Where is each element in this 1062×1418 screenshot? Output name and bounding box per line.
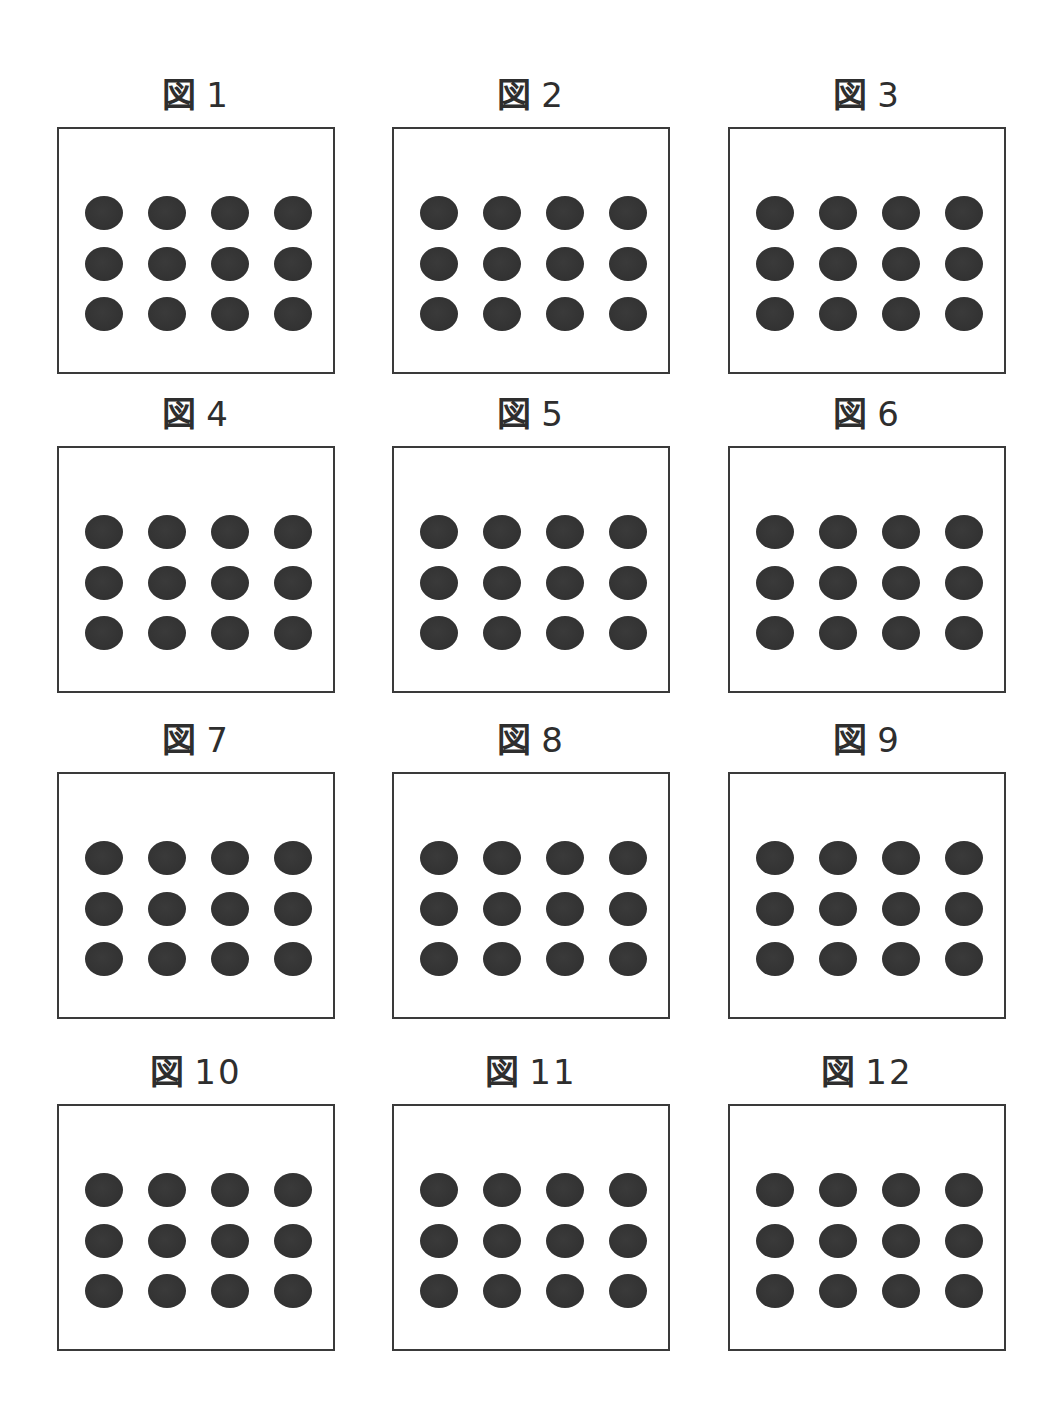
dot-icon: [85, 841, 123, 875]
dot-icon: [483, 566, 521, 600]
dot-icon: [945, 297, 983, 331]
dot-icon: [274, 515, 312, 549]
dot-icon: [85, 297, 123, 331]
dot-icon: [819, 247, 857, 281]
figure-number: 11: [529, 1052, 576, 1092]
figure-number: 3: [877, 75, 901, 115]
figure-label: 図: [162, 720, 198, 760]
dot-icon: [274, 196, 312, 230]
figure-label: 図: [833, 75, 869, 115]
dot-icon: [85, 1173, 123, 1207]
dot-icon: [819, 196, 857, 230]
dot-icon: [148, 1274, 186, 1308]
dot-icon: [148, 892, 186, 926]
dot-icon: [546, 942, 584, 976]
dot-icon: [483, 297, 521, 331]
dot-icon: [420, 616, 458, 650]
dot-icon: [483, 892, 521, 926]
dot-icon: [148, 942, 186, 976]
dot-icon: [819, 1173, 857, 1207]
dot-icon: [945, 892, 983, 926]
figure-title: 図10: [57, 1052, 335, 1092]
dot-icon: [819, 616, 857, 650]
dot-icon: [148, 247, 186, 281]
dot-icon: [420, 942, 458, 976]
dot-icon: [211, 1274, 249, 1308]
dot-icon: [756, 196, 794, 230]
dot-icon: [148, 841, 186, 875]
dot-icon: [609, 247, 647, 281]
dot-icon: [546, 616, 584, 650]
dot-icon: [483, 515, 521, 549]
dot-icon: [148, 1173, 186, 1207]
figure-title: 図9: [728, 720, 1006, 760]
figure-title: 図12: [728, 1052, 1006, 1092]
dot-icon: [85, 616, 123, 650]
dot-icon: [609, 566, 647, 600]
figure-number: 8: [541, 720, 565, 760]
figure-number: 2: [541, 75, 565, 115]
dot-icon: [420, 841, 458, 875]
figure-box: [392, 446, 670, 693]
dot-icon: [882, 1274, 920, 1308]
dot-icon: [420, 1274, 458, 1308]
dot-icon: [756, 1224, 794, 1258]
dot-icon: [756, 297, 794, 331]
dot-icon: [274, 1224, 312, 1258]
dot-icon: [211, 1173, 249, 1207]
figure-number: 12: [865, 1052, 912, 1092]
dot-icon: [546, 566, 584, 600]
dot-icon: [945, 515, 983, 549]
dot-icon: [274, 1173, 312, 1207]
dot-icon: [483, 247, 521, 281]
dot-icon: [211, 247, 249, 281]
figure-box: [392, 772, 670, 1019]
dot-icon: [546, 1224, 584, 1258]
dot-icon: [882, 1173, 920, 1207]
dot-icon: [211, 1224, 249, 1258]
dot-icon: [483, 616, 521, 650]
dot-icon: [819, 942, 857, 976]
figure-label: 図: [162, 394, 198, 434]
figure-box: [728, 1104, 1006, 1351]
dot-icon: [882, 297, 920, 331]
dot-icon: [211, 942, 249, 976]
figure-label: 図: [150, 1052, 186, 1092]
figure-box: [728, 127, 1006, 374]
dot-icon: [274, 616, 312, 650]
figure-box: [57, 772, 335, 1019]
figure-box: [57, 1104, 335, 1351]
dot-icon: [211, 566, 249, 600]
dot-icon: [609, 841, 647, 875]
dot-icon: [945, 841, 983, 875]
dot-icon: [211, 196, 249, 230]
dot-icon: [85, 1224, 123, 1258]
dot-icon: [546, 1173, 584, 1207]
figure-number: 10: [194, 1052, 241, 1092]
dot-icon: [85, 566, 123, 600]
figure-box: [728, 446, 1006, 693]
figure-title: 図1: [57, 75, 335, 115]
dot-icon: [85, 247, 123, 281]
dot-icon: [85, 892, 123, 926]
dot-icon: [609, 942, 647, 976]
dot-icon: [609, 1274, 647, 1308]
dot-icon: [148, 515, 186, 549]
dot-icon: [420, 566, 458, 600]
dot-icon: [483, 841, 521, 875]
figure-label: 図: [833, 394, 869, 434]
dot-icon: [420, 892, 458, 926]
dot-icon: [882, 515, 920, 549]
dot-icon: [483, 1173, 521, 1207]
dot-icon: [85, 515, 123, 549]
figure-label: 図: [833, 720, 869, 760]
figure-number: 9: [877, 720, 901, 760]
dot-icon: [819, 515, 857, 549]
dot-icon: [148, 297, 186, 331]
dot-icon: [420, 1224, 458, 1258]
figure-title: 図8: [392, 720, 670, 760]
dot-icon: [609, 892, 647, 926]
dot-icon: [819, 566, 857, 600]
dot-icon: [819, 892, 857, 926]
dot-icon: [274, 247, 312, 281]
